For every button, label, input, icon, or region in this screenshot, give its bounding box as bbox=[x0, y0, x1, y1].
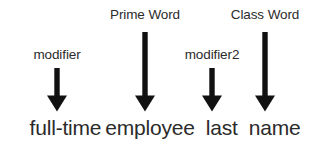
phrase-word-last: last bbox=[206, 116, 238, 140]
phrase-word-employee: employee bbox=[105, 116, 194, 140]
target-phrase: full-timeemployeelastname bbox=[0, 116, 330, 140]
down-arrow-icon-modifier bbox=[47, 68, 67, 112]
down-arrow-icon-modifier2 bbox=[202, 68, 222, 112]
phrase-word-name: name bbox=[249, 116, 301, 140]
down-arrow-icon-prime-word bbox=[135, 32, 155, 112]
annotation-diagram: modifier Prime Word modifier2 Class Word bbox=[0, 0, 330, 148]
phrase-word-full-time: full-time bbox=[30, 116, 102, 140]
down-arrow-icon-class-word bbox=[255, 32, 275, 112]
